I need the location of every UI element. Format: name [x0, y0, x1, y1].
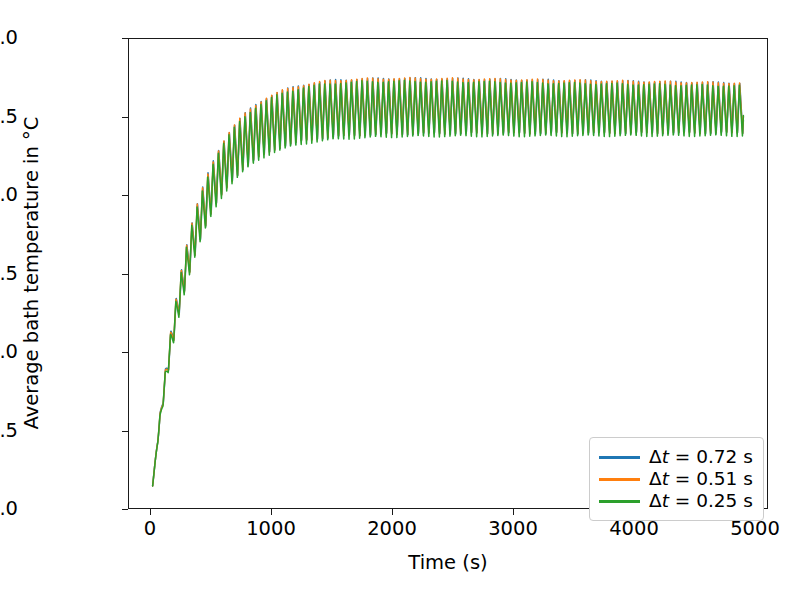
ytick-label-963-0: 963.0: [0, 28, 18, 48]
legend-label-0: Δt = 0.72 s: [649, 448, 753, 467]
series-line-2: [153, 80, 744, 486]
legend-item-0[interactable]: Δt = 0.72 s: [599, 446, 754, 468]
legend: Δt = 0.72 s Δt = 0.51 s Δt = 0.25 s: [589, 437, 764, 521]
xtick-mark: [513, 509, 514, 515]
xtick-label-1000: 1000: [246, 519, 296, 539]
xtick-mark: [271, 509, 272, 515]
ytick-mark: [122, 509, 128, 510]
xtick-label-0: 0: [144, 519, 156, 539]
ytick-label-962-0: 962.0: [0, 185, 18, 205]
legend-label-2: Δt = 0.25 s: [649, 492, 753, 511]
legend-swatch-2: [599, 500, 640, 503]
xtick-label-2000: 2000: [367, 519, 417, 539]
legend-swatch-1: [599, 478, 640, 481]
ytick-label-961-5: 961.5: [0, 264, 18, 284]
ytick-label-960-5: 960.5: [0, 421, 18, 441]
xtick-mark: [150, 509, 151, 515]
xtick-label-3000: 3000: [488, 519, 538, 539]
legend-item-2[interactable]: Δt = 0.25 s: [599, 490, 754, 512]
x-axis-label: Time (s): [408, 551, 487, 574]
ytick-label-962-5: 962.5: [0, 107, 18, 127]
ytick-label-961-0: 961.0: [0, 342, 18, 362]
legend-item-1[interactable]: Δt = 0.51 s: [599, 468, 754, 490]
legend-label-1: Δt = 0.51 s: [649, 470, 753, 489]
xtick-label-4000: 4000: [609, 519, 659, 539]
xtick-label-5000: 5000: [730, 519, 780, 539]
xtick-mark: [392, 509, 393, 515]
ytick-label-960-0: 960.0: [0, 499, 18, 519]
y-axis-label: Average bath temperature in °C: [20, 117, 43, 430]
chart-figure: 963.0 962.5 962.0 961.5 961.0 960.5 960.…: [0, 0, 802, 612]
legend-swatch-0: [599, 456, 640, 459]
